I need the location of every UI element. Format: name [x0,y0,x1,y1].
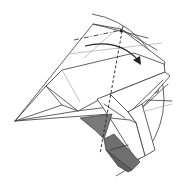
right-light-crease [142,104,172,112]
origami-diagram [0,0,184,192]
colored-paper-upper [80,114,112,139]
pivot-point [120,30,123,33]
